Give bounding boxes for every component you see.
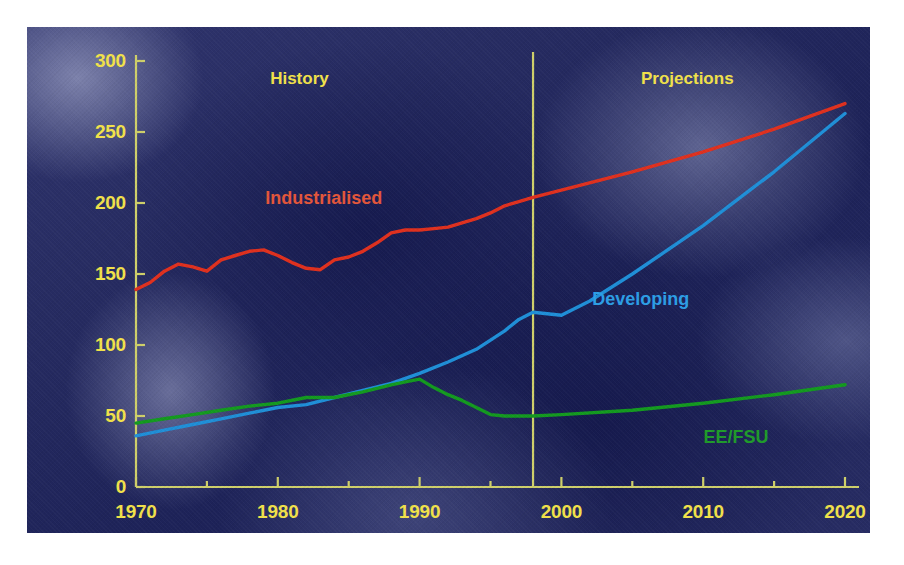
x-tick-label: 2010 — [663, 501, 743, 523]
y-tick-label: 250 — [68, 121, 126, 143]
y-tick-label: 300 — [68, 50, 126, 72]
series-label-developing: Developing — [592, 289, 689, 310]
series-line-developing — [136, 114, 845, 436]
y-tick-label: 100 — [68, 334, 126, 356]
y-tick-label: 200 — [68, 192, 126, 214]
series-label-ee-fsu: EE/FSU — [704, 427, 769, 448]
plot-area — [27, 27, 870, 533]
x-tick-label: 1980 — [238, 501, 318, 523]
y-tick-label: 150 — [68, 263, 126, 285]
y-tick-label: 0 — [68, 476, 126, 498]
series-line-industrialised — [136, 104, 845, 290]
chart-panel: Quadrillion Btu History Projections Indu… — [27, 27, 870, 533]
chart-svg — [27, 27, 870, 533]
projections-label: Projections — [641, 69, 734, 89]
x-tick-label: 2000 — [521, 501, 601, 523]
series-line-ee-fsu — [136, 379, 845, 423]
chart-screenshot: Quadrillion Btu History Projections Indu… — [0, 0, 904, 565]
x-tick-label: 1990 — [380, 501, 460, 523]
y-tick-label: 50 — [68, 405, 126, 427]
x-tick-label: 2020 — [805, 501, 870, 523]
series-label-industrialised: Industrialised — [265, 188, 382, 209]
x-tick-label: 1970 — [96, 501, 176, 523]
history-label: History — [270, 69, 329, 89]
